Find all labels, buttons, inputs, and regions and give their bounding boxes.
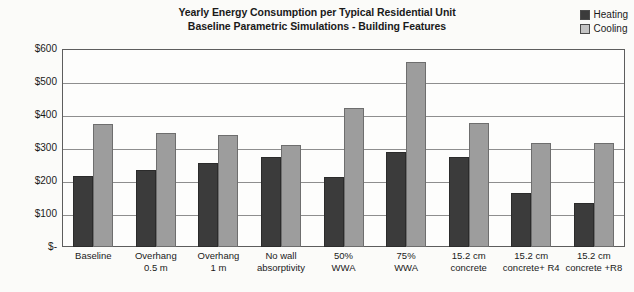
chart-title-line-1: Yearly Energy Consumption per Typical Re… (0, 6, 634, 20)
bar-heating[interactable] (574, 203, 594, 247)
bar-heating[interactable] (386, 152, 406, 247)
bar-heating[interactable] (198, 163, 218, 247)
y-tick-label: $500 (11, 76, 57, 87)
x-tick-label: No wall absorptivity (250, 250, 313, 273)
x-tick-label: 15.2 cm concrete +R8 (563, 250, 626, 273)
bar-group (125, 49, 188, 247)
bar-heating[interactable] (449, 157, 469, 247)
bar-cooling[interactable] (406, 62, 426, 247)
chart-title: Yearly Energy Consumption per Typical Re… (0, 6, 634, 33)
bar-group (187, 49, 250, 247)
bar-groups (62, 49, 625, 247)
y-tick-label: $400 (11, 109, 57, 120)
x-tick-label: Overhang 0.5 m (125, 250, 188, 273)
x-tick-label: 15.2 cm concrete+ R4 (500, 250, 563, 273)
bar-group (312, 49, 375, 247)
bar-cooling[interactable] (281, 145, 301, 247)
y-tick-label: $100 (11, 208, 57, 219)
bar-cooling[interactable] (93, 124, 113, 247)
x-tick-label: 50% WWA (312, 250, 375, 273)
x-tick-label: Overhang 1 m (187, 250, 250, 273)
bar-heating[interactable] (73, 176, 93, 247)
bar-group (563, 49, 626, 247)
bar-cooling[interactable] (218, 135, 238, 247)
bar-heating[interactable] (261, 157, 281, 247)
cooling-swatch-icon (580, 24, 590, 34)
legend-item-cooling: Cooling (580, 22, 628, 36)
legend-item-heating: Heating (580, 8, 628, 22)
y-tick-label: $300 (11, 142, 57, 153)
bar-group (375, 49, 438, 247)
bar-cooling[interactable] (469, 123, 489, 247)
legend-label-heating: Heating (594, 8, 628, 22)
x-tick-label: 75% WWA (375, 250, 438, 273)
bar-group (250, 49, 313, 247)
y-tick-label: $600 (11, 43, 57, 54)
bar-heating[interactable] (136, 170, 156, 247)
x-tick-label: 15.2 cm concrete (437, 250, 500, 273)
energy-consumption-bar-chart: Yearly Energy Consumption per Typical Re… (0, 0, 634, 292)
x-tick-label: Baseline (62, 250, 125, 273)
bar-cooling[interactable] (594, 143, 614, 247)
bar-heating[interactable] (324, 177, 344, 247)
heating-swatch-icon (580, 10, 590, 20)
bar-group (62, 49, 125, 247)
bar-cooling[interactable] (344, 108, 364, 247)
bar-group (500, 49, 563, 247)
y-tick-label: $200 (11, 175, 57, 186)
y-tick-label: $- (11, 241, 57, 252)
bar-group (437, 49, 500, 247)
bar-cooling[interactable] (156, 133, 176, 247)
x-axis-labels: BaselineOverhang 0.5 mOverhang 1 mNo wal… (62, 250, 625, 273)
bar-cooling[interactable] (531, 143, 551, 247)
chart-legend: Heating Cooling (580, 8, 628, 36)
legend-label-cooling: Cooling (594, 22, 628, 36)
bar-heating[interactable] (511, 193, 531, 247)
chart-subtitle-line-2: Baseline Parametric Simulations - Buildi… (0, 20, 634, 34)
